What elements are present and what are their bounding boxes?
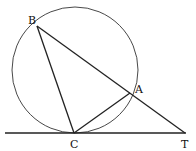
label-a: A	[134, 83, 144, 96]
geometry-diagram: B A C T	[0, 0, 196, 151]
label-b: B	[28, 14, 36, 27]
segment-bt	[37, 26, 185, 133]
segment-bc	[37, 26, 74, 133]
label-c: C	[70, 138, 78, 151]
label-t: T	[181, 138, 189, 151]
